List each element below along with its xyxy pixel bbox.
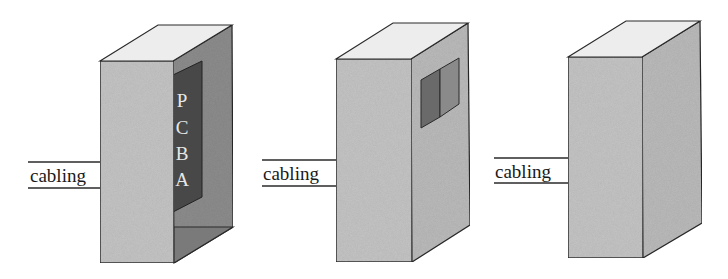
front-face-2 [336,59,412,262]
cabling-3: cabling [494,158,568,183]
interior-bottom-face [174,227,233,263]
svg-text:B: B [176,143,189,164]
side-face-2 [411,23,470,262]
cabling-label-2: cabling [263,163,319,184]
diagram-canvas: cabling P C B A cabling [0,0,728,279]
svg-text:A: A [175,169,189,190]
side-face-3 [642,21,702,258]
cabling-label-1: cabling [30,165,86,186]
cabling-label-3: cabling [495,161,551,182]
front-face-3 [568,57,643,258]
panel-enclosure-with-window: cabling [262,23,470,262]
panel-closed-enclosure: cabling [494,21,702,258]
svg-text:C: C [176,117,189,138]
front-face-1 [100,61,174,263]
panel-open-enclosure: cabling P C B A [28,25,233,263]
cabling-2: cabling [262,160,337,186]
svg-text:P: P [177,90,188,111]
cabling-1: cabling [28,162,101,188]
